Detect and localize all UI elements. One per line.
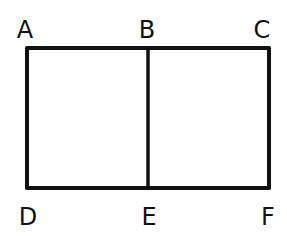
label-E: E (141, 203, 156, 231)
label-B: B (139, 16, 155, 44)
diagram-canvas: A B C D E F (0, 0, 287, 236)
label-A: A (17, 16, 34, 44)
label-C: C (254, 16, 271, 44)
label-D: D (19, 203, 37, 231)
label-F: F (261, 203, 275, 231)
